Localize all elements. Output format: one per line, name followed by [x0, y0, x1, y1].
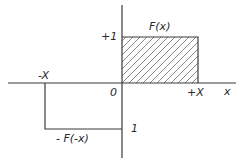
plus-one-label: +1: [101, 31, 117, 42]
hatch-fill: [80, 37, 238, 83]
plus-X-label: +X: [187, 87, 204, 98]
minus-f-minus-x-label: - F(-x): [56, 133, 89, 144]
minus-one-level-label: 1: [131, 123, 138, 134]
f-x-label: F(x): [149, 21, 170, 32]
x-axis-label: x: [224, 86, 231, 97]
minus-X-label: -X: [38, 70, 49, 81]
origin-label: 0: [110, 87, 117, 98]
function-diagram: +1 F(x) -X 0 +X x - F(-x) 1: [0, 0, 238, 167]
diagram-canvas: [0, 0, 238, 167]
